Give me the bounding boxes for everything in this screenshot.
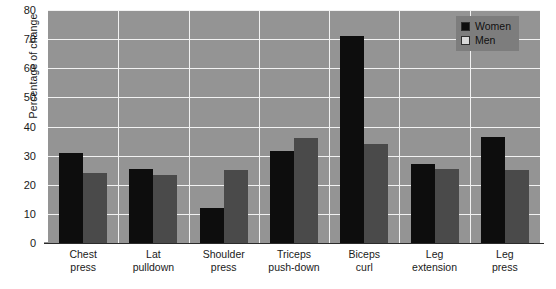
- legend-item-women: Women: [461, 20, 511, 32]
- x-axis-label-line-1: Chest: [48, 248, 118, 261]
- x-axis-label-line-1: Biceps: [329, 248, 399, 261]
- legend-label: Women: [475, 20, 511, 32]
- bar-men-chest-press: [83, 173, 107, 243]
- x-axis-label-line-2: press: [189, 261, 259, 274]
- x-axis-label-biceps-curl: Bicepscurl: [329, 248, 399, 274]
- x-axis-label-line-1: Lat: [118, 248, 188, 261]
- x-axis-label-line-1: Shoulder: [189, 248, 259, 261]
- y-tick-label: 10: [0, 208, 36, 220]
- bar-women-shoulder-press: [200, 208, 224, 243]
- x-axis-label-lat-pulldown: Latpulldown: [118, 248, 188, 274]
- bar-women-biceps-curl: [340, 36, 364, 243]
- legend: WomenMen: [456, 16, 519, 51]
- x-axis-label-triceps-push-down: Tricepspush-down: [259, 248, 329, 274]
- bar-men-biceps-curl: [364, 144, 388, 243]
- bar-men-lat-pulldown: [153, 175, 177, 243]
- x-axis-label-line-2: push-down: [259, 261, 329, 274]
- x-axis-label-leg-extension: Legextension: [399, 248, 469, 274]
- bar-women-chest-press: [59, 153, 83, 243]
- y-tick-label: 20: [0, 179, 36, 191]
- x-axis-label-line-1: Triceps: [259, 248, 329, 261]
- y-tick-label: 0: [0, 237, 36, 249]
- x-axis-category-labels: ChestpressLatpulldownShoulderpressTricep…: [48, 248, 540, 288]
- x-axis-label-shoulder-press: Shoulderpress: [189, 248, 259, 274]
- y-tick-label: 30: [0, 150, 36, 162]
- y-tick-label: 80: [0, 4, 36, 16]
- bar-women-leg-extension: [411, 164, 435, 243]
- x-axis-label-line-2: curl: [329, 261, 399, 274]
- y-tick-label: 50: [0, 91, 36, 103]
- bar-women-leg-press: [481, 137, 505, 243]
- bar-men-leg-press: [505, 170, 529, 243]
- x-axis-label-line-2: pulldown: [118, 261, 188, 274]
- x-axis-label-line-2: press: [470, 261, 540, 274]
- legend-item-men: Men: [461, 34, 511, 46]
- legend-label: Men: [475, 34, 495, 46]
- x-axis-line: [44, 243, 544, 244]
- x-axis-label-line-2: extension: [399, 261, 469, 274]
- x-axis-label-line-1: Leg: [399, 248, 469, 261]
- legend-swatch-icon: [461, 22, 470, 31]
- y-axis-tick-labels: 01020304050607080: [0, 0, 44, 289]
- bar-men-shoulder-press: [224, 170, 248, 243]
- x-axis-label-line-1: Leg: [470, 248, 540, 261]
- bar-men-leg-extension: [435, 169, 459, 243]
- bar-women-lat-pulldown: [129, 169, 153, 243]
- x-axis-label-line-2: press: [48, 261, 118, 274]
- y-tick-label: 60: [0, 62, 36, 74]
- legend-swatch-icon: [461, 36, 470, 45]
- y-tick-label: 70: [0, 33, 36, 45]
- bar-chart: Percentage of change 01020304050607080 C…: [0, 0, 556, 289]
- x-axis-label-chest-press: Chestpress: [48, 248, 118, 274]
- y-tick-label: 40: [0, 121, 36, 133]
- x-axis-label-leg-press: Legpress: [470, 248, 540, 274]
- bar-men-triceps-push-down: [294, 138, 318, 243]
- bar-women-triceps-push-down: [270, 151, 294, 243]
